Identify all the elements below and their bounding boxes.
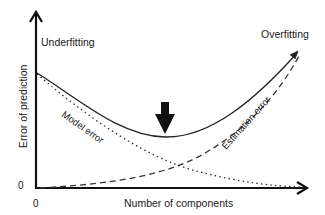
optimum-down-arrow-icon xyxy=(155,102,175,134)
total-error-arrowhead-icon xyxy=(290,51,298,59)
y-axis-label: Error of prediction xyxy=(17,64,29,148)
y-zero-tick: 0 xyxy=(18,180,24,191)
x-zero-tick: 0 xyxy=(33,198,39,209)
underfitting-label: Underfitting xyxy=(41,36,95,48)
overfitting-label: Overfitting xyxy=(261,28,309,40)
x-axis-label: Number of components xyxy=(124,197,233,209)
bias-variance-diagram: Underfitting Overfitting Error of predic… xyxy=(0,0,325,215)
